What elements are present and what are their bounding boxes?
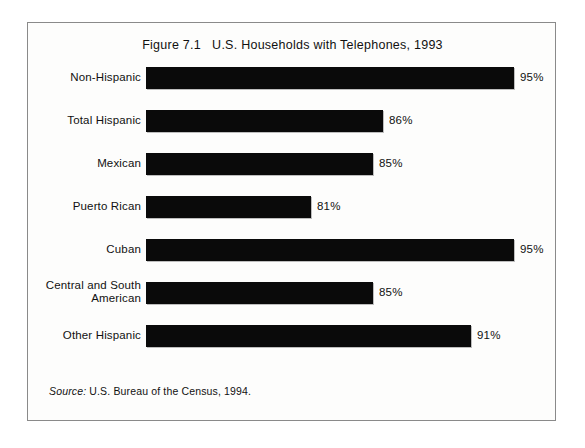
- bar-chart-plot-area: Non-Hispanic 95% Total Hispanic 86% Mexi…: [28, 63, 557, 363]
- bar-row: Other Hispanic 91%: [28, 325, 557, 347]
- bar-value-label: 95%: [520, 71, 544, 83]
- bar-category-label: Non-Hispanic: [0, 71, 141, 84]
- bar-rect: [146, 153, 373, 175]
- source-prefix: Source:: [49, 385, 86, 397]
- bar-rect: [146, 110, 383, 132]
- bar-value-label: 81%: [317, 200, 341, 212]
- figure-title: Figure 7.1 U.S. Households with Telephon…: [28, 38, 557, 52]
- bar-track: 81%: [146, 196, 311, 218]
- bar-value-label: 85%: [379, 286, 403, 298]
- bar-category-label: Cuban: [0, 243, 141, 256]
- bar-rect: [146, 67, 514, 89]
- bar-category-label: Total Hispanic: [0, 114, 141, 127]
- bar-value-label: 85%: [379, 157, 403, 169]
- bar-value-label: 91%: [477, 329, 501, 341]
- bar-row: Non-Hispanic 95%: [28, 67, 557, 89]
- source-text: U.S. Bureau of the Census, 1994.: [86, 385, 251, 397]
- bar-category-label: Central and South American: [0, 279, 141, 305]
- bar-category-label: Other Hispanic: [0, 329, 141, 342]
- bar-category-label: Mexican: [0, 157, 141, 170]
- bar-rect: [146, 282, 373, 304]
- bar-row: Cuban 95%: [28, 239, 557, 261]
- source-note: Source: U.S. Bureau of the Census, 1994.: [49, 385, 251, 397]
- bar-track: 85%: [146, 282, 373, 304]
- bar-track: 85%: [146, 153, 373, 175]
- bar-value-label: 86%: [389, 114, 413, 126]
- bar-track: 95%: [146, 67, 514, 89]
- bar-track: 91%: [146, 325, 471, 347]
- bar-row: Puerto Rican 81%: [28, 196, 557, 218]
- bar-row: Mexican 85%: [28, 153, 557, 175]
- bar-row: Total Hispanic 86%: [28, 110, 557, 132]
- bar-row: Central and South American 85%: [28, 282, 557, 304]
- bar-rect: [146, 239, 514, 261]
- figure-frame: Figure 7.1 U.S. Households with Telephon…: [27, 22, 556, 421]
- bar-rect: [146, 196, 311, 218]
- bar-track: 86%: [146, 110, 383, 132]
- bar-track: 95%: [146, 239, 514, 261]
- bar-category-label: Puerto Rican: [0, 200, 141, 213]
- bar-rect: [146, 325, 471, 347]
- bar-value-label: 95%: [520, 243, 544, 255]
